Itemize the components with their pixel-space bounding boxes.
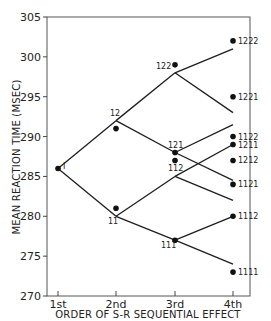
branch-line [116,176,175,216]
branch-line [116,121,175,153]
data-point [230,142,236,148]
data-point [230,213,236,219]
node-label: 1212 [238,156,258,165]
y-tick-label: 285 [20,170,41,183]
node-label: 121 [168,141,183,150]
data-point [113,206,119,212]
branch-line [175,125,233,153]
sequential-effect-chart: 270275280285290295300305 1st2nd3rd4th I1… [0,0,271,321]
data-point [230,269,236,275]
data-point [172,150,178,156]
node-label: 122 [156,62,171,71]
node-label: 1121 [238,180,258,189]
y-tick-label: 305 [20,11,41,24]
branch-line [175,145,233,177]
plot-frame [47,17,250,296]
data-point [230,94,236,100]
data-point [230,182,236,188]
data-point [113,126,119,132]
data-point [230,134,236,140]
node-label: 1222 [238,37,258,46]
node-label: 112 [168,164,183,173]
node-label: 1111 [238,268,258,277]
node-label: I [63,162,65,171]
y-tick-label: 280 [20,210,41,223]
y-axis: 270275280285290295300305 [20,11,47,303]
tree-lines [58,49,233,264]
branch-line [116,73,175,121]
branch-line [175,216,233,240]
y-tick-label: 295 [20,91,41,104]
observed-points [55,38,236,275]
y-tick-label: 275 [20,250,41,263]
node-label: 11 [108,217,118,226]
data-point [172,158,178,164]
node-label: 1211 [238,141,258,150]
x-axis: 1st2nd3rd4th [49,291,242,311]
branch-line [175,176,233,200]
plot-border [47,17,250,296]
branch-line [116,216,175,240]
branch-line [175,153,233,181]
branch-line [58,168,116,216]
branch-line [175,73,233,113]
node-label: 1112 [238,212,258,221]
node-label: 1221 [238,93,258,102]
data-point [172,62,178,68]
node-label: 12 [110,109,120,118]
branch-line [58,121,116,169]
data-point [230,38,236,44]
y-tick-label: 270 [20,290,41,303]
data-point [230,158,236,164]
y-axis-title: MEAN REACTION TIME (MSEC) [11,79,22,234]
branch-line [175,49,233,73]
point-labels: I121112212111211112221221112212111212112… [63,37,258,277]
x-axis-title: ORDER OF S-R SEQUENTIAL EFFECT [55,309,241,320]
y-tick-label: 290 [20,131,41,144]
data-point [55,166,61,172]
branch-line [175,240,233,264]
y-tick-label: 300 [20,51,41,64]
node-label: 111 [161,241,176,250]
